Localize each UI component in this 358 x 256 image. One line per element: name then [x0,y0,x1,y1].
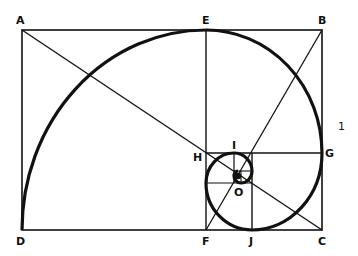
diagonal-AC [22,30,322,230]
label-A: A [16,15,25,26]
label-G: G [325,148,334,159]
label-I: I [232,140,236,151]
label-J: J [249,236,253,247]
label-D: D [16,236,25,247]
label-H: H [193,152,202,163]
label-C: C [318,236,326,247]
diagonal-BF [206,30,322,230]
center-point-O [235,173,241,179]
golden-spiral-diagram [0,0,358,256]
label-side-1: 1 [338,121,345,132]
label-O: O [234,187,243,198]
label-F: F [202,236,210,247]
label-B: B [318,15,326,26]
label-E: E [202,15,210,26]
